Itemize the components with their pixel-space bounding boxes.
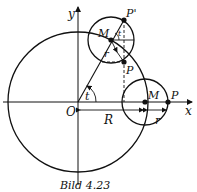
label-P-lower: P — [170, 89, 179, 102]
label-P-prime: P' — [125, 7, 136, 20]
label-M-lower: M — [147, 89, 160, 102]
point-P-lower — [165, 99, 170, 104]
epicycle-diagram: y x O R r t M P M P' P r t Bild 4.23 — [0, 0, 197, 192]
point-M-lower — [142, 99, 147, 104]
label-y: y — [67, 7, 75, 21]
label-t-small: t — [118, 29, 122, 38]
label-r-prime: r — [104, 48, 110, 59]
figure-caption: Bild 4.23 — [59, 179, 110, 192]
label-M-upper: M — [97, 27, 110, 40]
label-r: r — [155, 114, 161, 127]
label-t: t — [85, 90, 90, 103]
label-P-upper: P — [125, 64, 134, 77]
label-x: x — [185, 104, 192, 118]
label-O: O — [66, 105, 76, 119]
label-R: R — [103, 113, 113, 127]
